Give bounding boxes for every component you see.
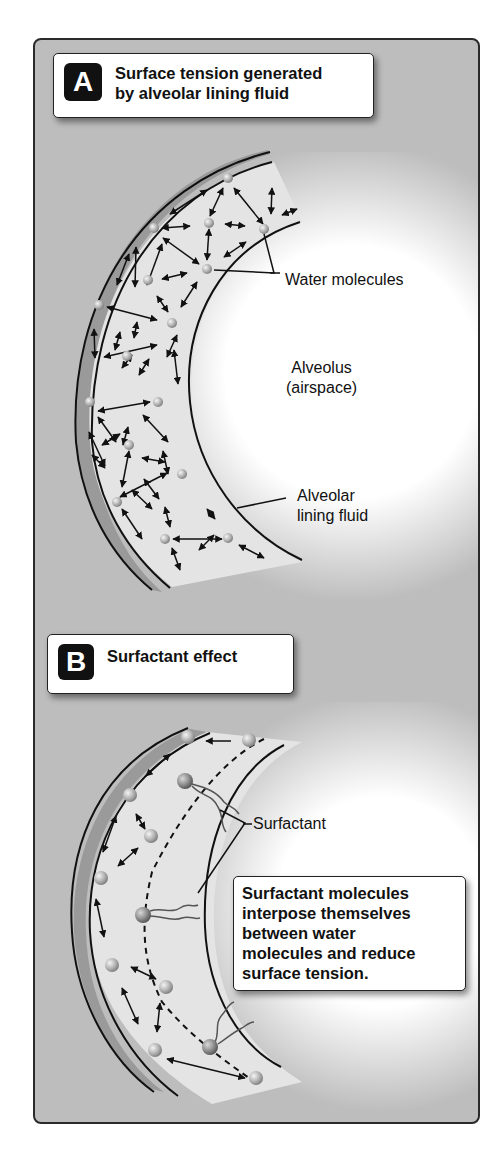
panel-a-letter: A xyxy=(64,63,102,101)
panel-b-title: Surfactant effect xyxy=(107,646,237,666)
panel-a-title: Surface tension generated by alveolar li… xyxy=(115,63,322,103)
panel-a-title-box: A Surface tension generated by alveolar … xyxy=(53,53,374,118)
label-alveolar-lining-fluid: Alveolar lining fluid xyxy=(297,486,368,526)
surfactant-note-box: Surfactant molecules interpose themselve… xyxy=(233,876,466,991)
note-line: between water xyxy=(242,923,457,943)
panel-b-title-box: B Surfactant effect xyxy=(47,634,294,694)
note-line: molecules and reduce xyxy=(242,943,457,963)
note-line: interpose themselves xyxy=(242,903,457,923)
note-line: Surfactant molecules xyxy=(242,883,457,903)
figure-panel: A Surface tension generated by alveolar … xyxy=(33,38,480,1124)
label-surfactant: Surfactant xyxy=(253,814,326,834)
note-line: surface tension. xyxy=(242,963,457,983)
label-alveolus: Alveolus (airspace) xyxy=(286,358,357,398)
label-water-molecules: Water molecules xyxy=(285,270,404,290)
panel-b-letter: B xyxy=(58,644,94,680)
